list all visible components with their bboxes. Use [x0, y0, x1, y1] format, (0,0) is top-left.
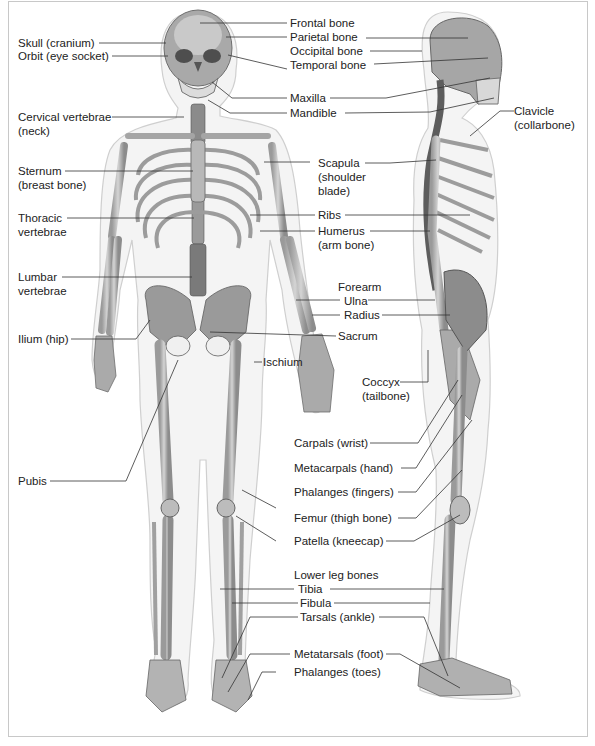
front-feet	[146, 660, 252, 712]
label-sternum: Sternum(breast bone)	[18, 164, 86, 192]
label-patella: Patella (kneecap)	[294, 534, 384, 548]
label-lower-leg-bones: Lower leg bones	[294, 568, 378, 582]
label-coccyx: Coccyx(tailbone)	[362, 375, 410, 403]
label-cervical-vertebrae: Cervical vertebrae(neck)	[18, 110, 111, 138]
side-foot	[418, 658, 512, 696]
label-ulna: Ulna	[344, 294, 368, 308]
label-thoracic-vertebrae: Thoracicvertebrae	[18, 211, 67, 239]
side-patella	[450, 496, 470, 524]
label-ribs: Ribs	[318, 208, 341, 222]
label-skull: Skull (cranium)	[18, 36, 95, 50]
label-ischium: Ischium	[263, 355, 303, 369]
label-sacrum: Sacrum	[338, 329, 378, 343]
label-lumbar-vertebrae: Lumbarvertebrae	[18, 270, 67, 298]
label-scapula: Scapula(shoulderblade)	[318, 156, 366, 198]
label-maxilla: Maxilla	[290, 91, 326, 105]
label-carpals: Carpals (wrist)	[294, 436, 368, 450]
label-orbit: Orbit (eye socket)	[18, 49, 109, 63]
label-forearm: Forearm	[338, 280, 381, 294]
label-tibia: Tibia	[298, 582, 323, 596]
label-phalanges-fingers: Phalanges (fingers)	[294, 485, 394, 499]
label-humerus: Humerus(arm bone)	[318, 224, 374, 252]
label-pubis: Pubis	[18, 474, 47, 488]
label-fibula: Fibula	[300, 596, 331, 610]
label-metatarsals: Metatarsals (foot)	[294, 647, 383, 661]
label-occipital-bone: Occipital bone	[290, 44, 363, 58]
label-tarsals: Tarsals (ankle)	[300, 610, 375, 624]
label-metacarpals: Metacarpals (hand)	[294, 461, 393, 475]
label-ilium: Ilium (hip)	[18, 332, 68, 346]
label-femur: Femur (thigh bone)	[294, 511, 392, 525]
label-temporal-bone: Temporal bone	[290, 58, 366, 72]
label-radius: Radius	[344, 308, 380, 322]
label-parietal-bone: Parietal bone	[290, 30, 358, 44]
label-mandible: Mandible	[290, 106, 337, 120]
front-sternum	[191, 140, 205, 202]
label-phalanges-toes: Phalanges (toes)	[294, 665, 381, 679]
label-frontal-bone: Frontal bone	[290, 16, 355, 30]
label-clavicle: Clavicle(collarbone)	[514, 104, 575, 132]
